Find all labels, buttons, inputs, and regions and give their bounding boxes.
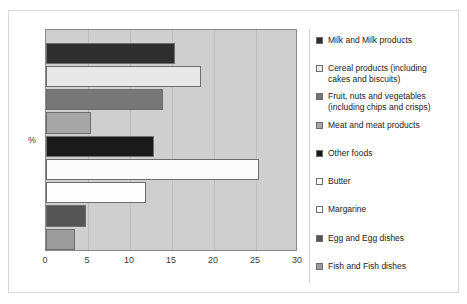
- bar-row: [46, 111, 296, 134]
- bar: [46, 205, 86, 226]
- plot-wrapper: [45, 29, 297, 251]
- bar: [46, 89, 163, 110]
- bar: [46, 159, 259, 180]
- legend-label: Egg and Egg dishes: [328, 233, 404, 244]
- legend-label: Other foods: [328, 148, 372, 159]
- x-tick-label: 25: [250, 255, 260, 265]
- legend-swatch-icon: [316, 150, 323, 157]
- bar: [46, 112, 91, 133]
- bar: [46, 66, 201, 87]
- chart-figure: 051015202530 % Milk and Milk productsCer…: [8, 10, 459, 293]
- bar-row: [46, 204, 296, 227]
- legend-item[interactable]: Milk and Milk products: [316, 35, 449, 46]
- x-tick-label: 0: [42, 255, 47, 265]
- bar-row: [46, 158, 296, 181]
- x-tick-label: 5: [84, 255, 89, 265]
- x-tick-label: 15: [166, 255, 176, 265]
- plot-area: [45, 29, 297, 251]
- bar-row: [46, 88, 296, 111]
- legend-label: Butter: [328, 176, 351, 187]
- bar: [46, 136, 154, 157]
- legend-label: Fish and Fish dishes: [328, 261, 406, 272]
- legend-item[interactable]: Meat and meat products: [316, 120, 449, 131]
- bar-row: [46, 181, 296, 204]
- legend-swatch-icon: [316, 206, 323, 213]
- bar-row: [46, 135, 296, 158]
- chart-legend: Milk and Milk productsCereal products (i…: [309, 29, 449, 283]
- legend-label: Milk and Milk products: [328, 35, 412, 46]
- legend-item[interactable]: Butter: [316, 176, 449, 187]
- legend-item[interactable]: Egg and Egg dishes: [316, 233, 449, 244]
- bar: [46, 229, 75, 250]
- legend-item[interactable]: Other foods: [316, 148, 449, 159]
- bar-row: [46, 228, 296, 251]
- x-axis: 051015202530: [45, 252, 297, 272]
- legend-swatch-icon: [316, 235, 323, 242]
- x-tick-label: 30: [292, 255, 302, 265]
- legend-swatch-icon: [316, 37, 323, 44]
- legend-swatch-icon: [316, 122, 323, 129]
- bar: [46, 182, 146, 203]
- legend-item[interactable]: Fish and Fish dishes: [316, 261, 449, 272]
- bar-row: [46, 65, 296, 88]
- legend-label: Cereal products (including cakes and bis…: [328, 63, 427, 84]
- legend-swatch-icon: [316, 178, 323, 185]
- legend-item[interactable]: Margarine: [316, 204, 449, 215]
- legend-label: Margarine: [328, 204, 366, 215]
- legend-swatch-icon: [316, 65, 323, 72]
- legend-item[interactable]: Cereal products (including cakes and bis…: [316, 63, 449, 84]
- legend-label: Meat and meat products: [328, 120, 420, 131]
- y-axis-label: %: [28, 135, 36, 145]
- legend-label: Fruit, nuts and vegetables (including ch…: [328, 91, 431, 112]
- x-tick-label: 20: [208, 255, 218, 265]
- legend-item[interactable]: Fruit, nuts and vegetables (including ch…: [316, 91, 449, 112]
- bar-series: [46, 30, 296, 250]
- bar-row: [46, 42, 296, 65]
- legend-swatch-icon: [316, 93, 323, 100]
- x-tick-label: 10: [124, 255, 134, 265]
- legend-swatch-icon: [316, 263, 323, 270]
- bar: [46, 43, 175, 64]
